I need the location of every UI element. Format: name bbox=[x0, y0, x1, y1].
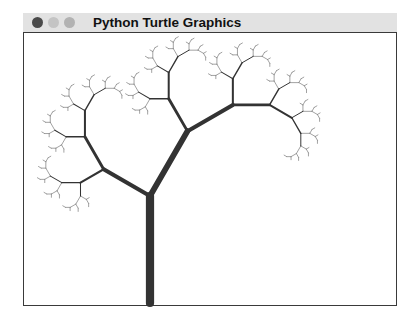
tree-branch bbox=[169, 57, 178, 73]
tree-branch bbox=[173, 38, 175, 42]
tree-branch bbox=[230, 53, 233, 55]
tree-branch bbox=[253, 46, 255, 50]
tree-branch bbox=[43, 160, 46, 162]
tree-branch bbox=[116, 83, 119, 85]
tree-branch bbox=[50, 176, 61, 183]
tree-branch bbox=[299, 83, 304, 86]
tree-branch bbox=[37, 178, 40, 180]
tree-branch bbox=[235, 47, 238, 49]
tree-branch bbox=[107, 76, 110, 78]
tree-branch bbox=[287, 75, 290, 77]
tree-branch bbox=[51, 191, 57, 194]
tree-branch bbox=[276, 69, 279, 71]
tree-branch bbox=[292, 71, 295, 73]
tree-branch bbox=[76, 196, 81, 204]
tree-branch bbox=[299, 79, 301, 83]
tree-branch bbox=[312, 111, 317, 114]
tree-branch bbox=[296, 154, 298, 158]
tree-branch bbox=[200, 45, 203, 47]
tree-branch bbox=[315, 136, 317, 140]
tree-branch bbox=[240, 43, 243, 45]
tree-branch bbox=[304, 86, 306, 90]
tree-branch bbox=[233, 63, 242, 79]
tree-branch bbox=[134, 84, 139, 92]
tree-branch bbox=[132, 108, 135, 110]
tree-branch bbox=[85, 137, 104, 169]
tree-branch bbox=[237, 45, 239, 49]
tree-branch bbox=[43, 121, 46, 123]
tree-branch bbox=[217, 54, 219, 58]
tree-branch bbox=[150, 50, 153, 52]
tree-branch bbox=[203, 52, 206, 54]
tree-branch bbox=[153, 58, 158, 66]
tree-branch bbox=[86, 199, 88, 203]
tree-branch bbox=[49, 130, 55, 133]
tree-branch bbox=[136, 72, 139, 74]
tree-branch bbox=[74, 104, 85, 111]
tree-branch bbox=[86, 198, 89, 200]
tree-branch bbox=[104, 169, 150, 196]
tree-branch bbox=[270, 89, 279, 105]
tree-branch bbox=[56, 145, 62, 148]
tree-branch bbox=[291, 154, 296, 157]
turtle-canvas[interactable] bbox=[23, 32, 397, 306]
tree-branch bbox=[262, 53, 264, 57]
tree-branch bbox=[145, 56, 148, 58]
tree-branch bbox=[46, 158, 48, 162]
tree-branch bbox=[255, 45, 258, 47]
tree-branch bbox=[303, 101, 305, 105]
tree-branch bbox=[131, 76, 134, 78]
tree-branch bbox=[114, 84, 116, 88]
tree-branch bbox=[50, 122, 55, 130]
tree-branches bbox=[37, 37, 320, 303]
tree-branch bbox=[312, 107, 314, 111]
tree-branch bbox=[268, 60, 270, 64]
tree-branch bbox=[69, 86, 71, 90]
tree-branch bbox=[133, 92, 139, 95]
tree-branch bbox=[292, 111, 303, 117]
fractal-tree-drawing bbox=[1, 1, 417, 321]
tree-branch bbox=[306, 149, 308, 153]
tree-branch bbox=[90, 87, 95, 95]
tree-branch bbox=[219, 52, 222, 54]
tree-branch bbox=[279, 83, 290, 89]
tree-branch bbox=[81, 169, 104, 182]
tree-branch bbox=[210, 63, 213, 65]
tree-branch bbox=[57, 191, 59, 195]
tree-branch bbox=[216, 72, 222, 75]
tree-branch bbox=[81, 196, 87, 199]
tree-branch bbox=[62, 137, 67, 145]
tree-branch bbox=[45, 176, 51, 179]
tree-branch bbox=[114, 88, 119, 91]
tree-branch bbox=[140, 107, 146, 110]
tree-branch bbox=[87, 79, 90, 81]
tree-branch bbox=[237, 55, 242, 63]
tree-branch bbox=[48, 147, 51, 149]
tree-branch bbox=[150, 131, 187, 196]
tree-branch bbox=[317, 114, 319, 118]
tree-branch bbox=[267, 79, 270, 81]
tree-branch bbox=[191, 38, 194, 40]
tree-branch bbox=[85, 95, 94, 111]
tree-branch bbox=[44, 192, 47, 194]
tree-branch bbox=[262, 56, 267, 59]
tree-branch bbox=[71, 84, 74, 86]
tree-branch bbox=[222, 72, 233, 79]
tree-branch bbox=[296, 146, 300, 154]
tree-branch bbox=[92, 75, 95, 77]
tree-branch bbox=[214, 56, 217, 58]
tree-branch bbox=[145, 107, 147, 111]
tree-branch bbox=[187, 105, 232, 131]
tree-branch bbox=[139, 92, 150, 99]
tree-branch bbox=[271, 73, 274, 75]
tree-branch bbox=[301, 77, 304, 79]
tree-branch bbox=[315, 135, 318, 137]
tree-branch bbox=[284, 155, 287, 157]
tree-branch bbox=[63, 206, 66, 208]
tree-branch bbox=[305, 99, 308, 101]
tree-branch bbox=[264, 51, 267, 53]
tree-branch bbox=[171, 41, 174, 43]
tree-branch bbox=[38, 167, 41, 169]
tree-branch bbox=[105, 78, 107, 82]
tree-branch bbox=[169, 99, 188, 131]
